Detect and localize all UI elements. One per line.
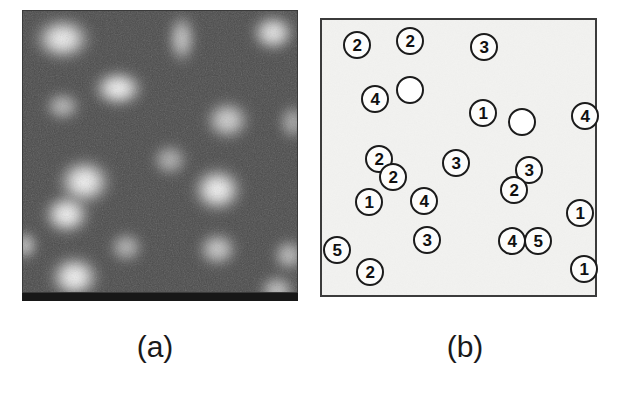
cluster-circle-4: 4 — [361, 85, 389, 113]
cluster-circle-label: 1 — [580, 261, 589, 278]
cluster-circle-label: 3 — [525, 162, 534, 179]
figure-root: 22341422332141345521 (a) (b) — [0, 0, 620, 400]
cluster-circle-label: 2 — [353, 37, 362, 54]
cluster-circle-label: 5 — [534, 233, 543, 250]
cluster-circle-2: 2 — [500, 176, 528, 204]
cluster-circle-1: 1 — [566, 199, 594, 227]
cluster-circle-label: 3 — [452, 155, 461, 172]
cluster-circle-4: 4 — [410, 187, 438, 215]
cluster-circle-label: 1 — [479, 105, 488, 122]
cluster-circle-2: 2 — [343, 31, 371, 59]
cluster-circle-label: 4 — [508, 233, 517, 250]
panel-b: 22341422332141345521 — [320, 18, 597, 297]
cluster-circle-label: 4 — [420, 193, 429, 210]
cluster-circle-5: 5 — [524, 227, 552, 255]
cluster-circle-label: 3 — [480, 39, 489, 56]
cluster-circle-label: 2 — [366, 264, 375, 281]
caption-panel-b: (b) — [310, 330, 620, 364]
cluster-circle-label: 1 — [576, 205, 585, 222]
cluster-circle-label: 4 — [371, 91, 380, 108]
cluster-circle-unlabeled — [508, 108, 536, 136]
cluster-circle-label: 5 — [333, 242, 342, 259]
cluster-circle-3: 3 — [442, 149, 470, 177]
cluster-circle-label: 2 — [375, 151, 384, 168]
cluster-circle-label: 2 — [510, 182, 519, 199]
cluster-circle-1: 1 — [355, 188, 383, 216]
cluster-circle-1: 1 — [469, 99, 497, 127]
cluster-circle-4: 4 — [498, 227, 526, 255]
cluster-circle-4: 4 — [571, 102, 599, 130]
schematic-map-box: 22341422332141345521 — [320, 18, 597, 297]
cluster-circle-label: 3 — [423, 232, 432, 249]
caption-panel-a: (a) — [0, 330, 310, 364]
cluster-circle-3: 3 — [413, 226, 441, 254]
stm-micrograph-canvas — [23, 11, 297, 292]
cluster-circle-1: 1 — [570, 255, 598, 283]
cluster-circle-label: 2 — [406, 33, 415, 50]
stm-micrograph-image — [22, 10, 298, 293]
panel-a — [22, 10, 298, 301]
cluster-circle-unlabeled — [396, 76, 424, 104]
cluster-circle-label: 2 — [389, 169, 398, 186]
cluster-circle-label: 1 — [365, 194, 374, 211]
cluster-circle-2: 2 — [396, 27, 424, 55]
cluster-circle-label: 4 — [581, 108, 590, 125]
cluster-circle-2: 2 — [356, 258, 384, 286]
cluster-circle-2: 2 — [379, 163, 407, 191]
cluster-circle-5: 5 — [323, 236, 351, 264]
cluster-circle-3: 3 — [470, 33, 498, 61]
micrograph-bottom-band — [22, 293, 298, 301]
